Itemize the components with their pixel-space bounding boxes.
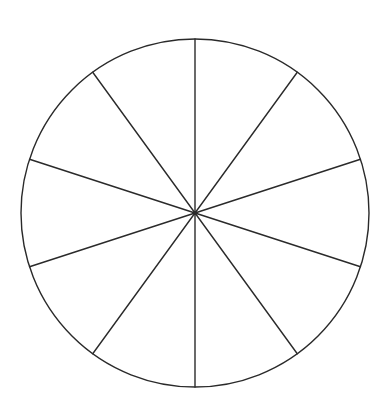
divided-circle-diagram bbox=[0, 0, 390, 413]
center-point bbox=[193, 211, 197, 215]
